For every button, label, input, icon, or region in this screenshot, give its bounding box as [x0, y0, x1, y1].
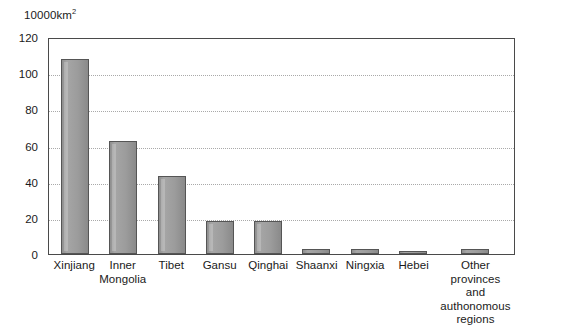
x-axis-category-label: Shaanxi	[292, 259, 340, 327]
x-axis-category-label: Tibet	[147, 259, 195, 327]
bar	[158, 176, 186, 254]
bar-slot	[389, 39, 437, 254]
bar	[399, 251, 427, 254]
x-axis-category-labels: XinjiangInner MongoliaTibetGansuQinghaiS…	[48, 259, 515, 327]
bar-slot	[196, 39, 244, 254]
bar-slot	[244, 39, 292, 254]
bar-slot	[341, 39, 389, 254]
y-axis-tick-label: 0	[32, 249, 38, 261]
y-axis-tick-label: 120	[19, 32, 38, 44]
y-axis-tick-label: 80	[25, 104, 38, 116]
y-axis-tick-label: 20	[25, 213, 38, 225]
x-axis-category-label: Qinghai	[244, 259, 292, 327]
bar	[302, 249, 330, 254]
y-axis-unit-superscript: 2	[72, 7, 76, 16]
x-axis-category-label: Hebei	[389, 259, 437, 327]
y-axis-tick-labels: 120100806040200	[0, 38, 44, 255]
bar	[254, 221, 282, 254]
bar	[461, 249, 489, 254]
y-axis-tick-label: 100	[19, 68, 38, 80]
y-axis-tick-label: 60	[25, 141, 38, 153]
y-axis-unit-text: 10000km	[24, 9, 72, 21]
x-axis-category-label: Xinjiang	[50, 259, 98, 327]
bar-slot	[148, 39, 196, 254]
bar-slot	[99, 39, 147, 254]
x-axis-category-label: Gansu	[195, 259, 243, 327]
bar-slot	[292, 39, 340, 254]
bar	[351, 249, 379, 254]
bar-slot	[51, 39, 99, 254]
bar	[61, 59, 89, 254]
y-axis-unit-label: 10000km2	[24, 9, 76, 22]
x-axis-category-label: Other provinces and authonomous regions	[438, 259, 513, 327]
x-axis-category-label: Ningxia	[341, 259, 389, 327]
bar-slot	[437, 39, 512, 254]
y-axis-tick-label: 40	[25, 177, 38, 189]
bar	[109, 141, 137, 254]
bar	[206, 221, 234, 254]
plot-area	[48, 38, 515, 255]
x-axis-category-label: Inner Mongolia	[98, 259, 146, 327]
bar-series	[49, 39, 514, 254]
